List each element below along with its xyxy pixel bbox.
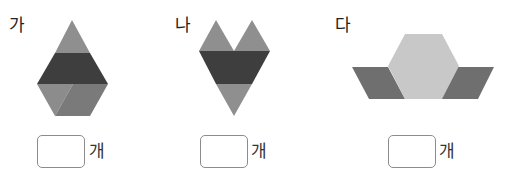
trapezoid-block xyxy=(37,53,108,84)
triangle-block xyxy=(216,84,252,116)
answer-box-na[interactable] xyxy=(200,135,248,168)
answer-box-da[interactable] xyxy=(388,135,436,168)
trapezoid-block xyxy=(199,51,270,84)
triangle-block xyxy=(199,20,234,51)
triangle-block xyxy=(55,20,90,53)
unit-label-ga: 개 xyxy=(89,143,105,160)
problem-label-ga: 가 xyxy=(9,17,25,34)
answer-box-ga[interactable] xyxy=(37,135,85,168)
unit-label-da: 개 xyxy=(439,143,455,160)
shape-da xyxy=(352,34,494,99)
unit-label-na: 개 xyxy=(251,143,267,160)
shape-ga xyxy=(37,20,108,116)
problem-label-na: 나 xyxy=(175,17,191,34)
triangle-block xyxy=(234,20,270,51)
problem-label-da: 다 xyxy=(335,17,351,34)
shape-na xyxy=(199,20,270,116)
